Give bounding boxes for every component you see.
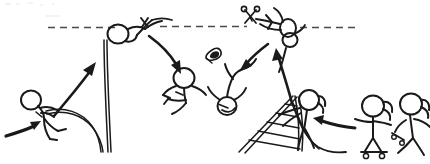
arrow-approach (6, 121, 41, 136)
arrow-launch (54, 62, 96, 116)
arrow-approach-ladder (313, 115, 355, 128)
prop-flying-shoe (206, 48, 221, 63)
prop-scissors (241, 6, 259, 23)
figure-observer-skateboard (355, 96, 392, 152)
arrow-fall-right (239, 44, 268, 72)
arrow-climb (272, 48, 292, 103)
scene-canvas: Stick Figure Pole Vault Sequence crossba… (0, 0, 430, 164)
prop-skateboard-left (361, 152, 387, 159)
prop-vault-pole (46, 40, 111, 152)
figure-observer-right (392, 94, 430, 156)
scan-artifacts (5, 3, 60, 16)
arrow-fall-left (149, 36, 181, 74)
figure-runner (21, 91, 66, 141)
figure-faller-left (163, 68, 206, 114)
illustration-svg (0, 0, 430, 164)
crossbar (48, 27, 356, 28)
figure-vaulter-at-bar (108, 18, 173, 44)
